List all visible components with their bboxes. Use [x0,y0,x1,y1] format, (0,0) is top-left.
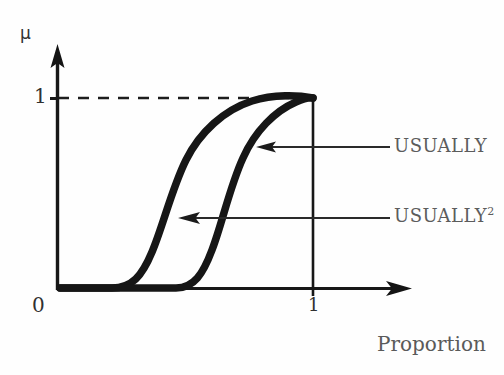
x-axis-tick-label-one: 1 [308,296,319,314]
curve-usually [60,98,313,288]
annotation-label-usually: USUALLY [394,136,487,155]
figure-container: μ 1 0 1 Proportion USUALLY USUALLY2 [0,0,504,375]
annotation-usually-text: USUALLY [394,135,487,156]
y-axis-tick-label-one: 1 [34,86,47,106]
y-axis-label: μ [20,25,31,42]
membership-function-chart [0,0,504,375]
x-axis-label: Proportion [377,334,486,354]
annotation-usually-squared-superscript: 2 [487,205,494,218]
annotation-usually-squared-text: USUALLY [394,205,487,226]
curve-usually-squared [60,96,313,288]
origin-label: 0 [32,295,45,315]
annotation-label-usually-squared: USUALLY2 [394,206,494,225]
